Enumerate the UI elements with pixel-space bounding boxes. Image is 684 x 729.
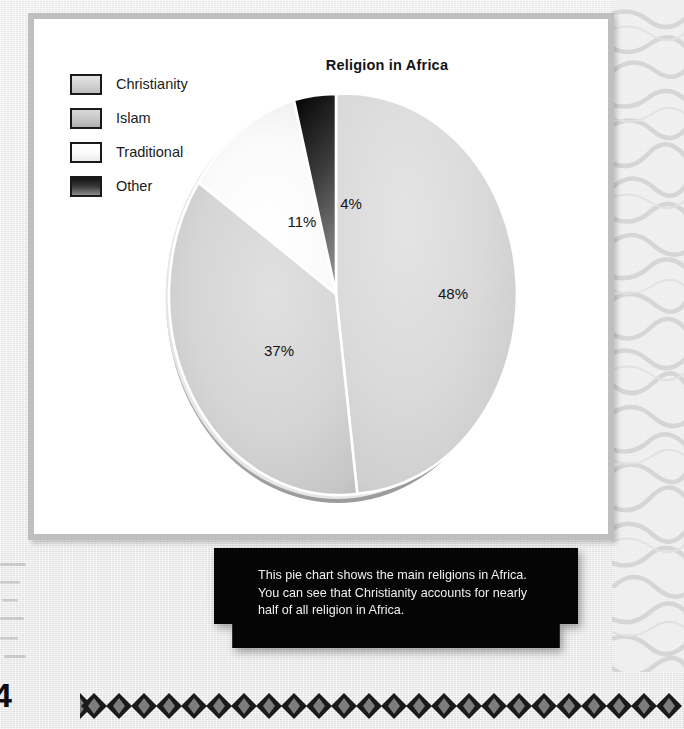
pie-chart: 48% 37% 11% 4% [164, 81, 509, 511]
legend-swatch-traditional-icon [70, 142, 102, 163]
diamond-rule-decoration [80, 689, 684, 723]
pie-label-christianity: 48% [438, 285, 468, 302]
caption-line-3: half of all religion in Africa. [258, 602, 558, 620]
caption-line-2: You can see that Christianity accounts f… [258, 585, 558, 603]
page-number: 4 [0, 676, 11, 715]
pie-label-islam: 37% [264, 342, 294, 359]
pie-label-traditional: 11% [288, 213, 317, 230]
pie-label-other: 4% [340, 195, 362, 212]
legend-swatch-christianity-icon [70, 74, 102, 95]
legend-label-islam: Islam [116, 110, 151, 126]
pie-slice-christianity[interactable] [336, 94, 517, 494]
caption-line-1: This pie chart shows the main religions … [258, 567, 558, 585]
caption-box: This pie chart shows the main religions … [214, 548, 578, 648]
legend-swatch-islam-icon [70, 108, 102, 129]
margin-marks-decoration [0, 555, 34, 675]
chart-card: Religion in Africa Christianity Islam Tr… [28, 13, 614, 540]
page-background: Religion in Africa Christianity Islam Tr… [0, 0, 684, 729]
zebra-texture-decoration [612, 0, 684, 672]
caption-text: This pie chart shows the main religions … [258, 567, 558, 620]
legend-label-other: Other [116, 178, 152, 194]
legend-swatch-other-icon [70, 176, 102, 197]
